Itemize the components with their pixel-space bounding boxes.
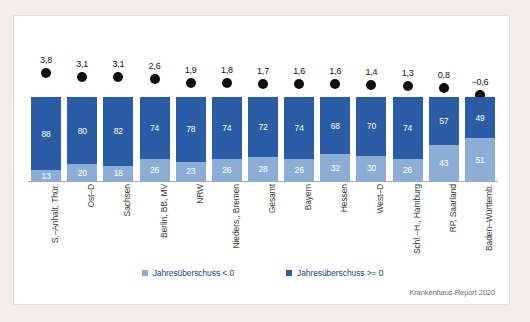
bar-segment-value: 57 <box>439 116 448 126</box>
category-label-text: Schl.–H., Hamburg <box>412 184 422 254</box>
bar-column[interactable]: 1,47030 <box>356 26 386 181</box>
marker-dot <box>222 78 232 88</box>
marker-dot <box>41 68 51 78</box>
bar-segment-value: 74 <box>150 123 159 133</box>
marker-dot <box>439 83 449 93</box>
bar-segment-value: 80 <box>78 126 87 136</box>
bar-segment-value: 30 <box>367 163 376 173</box>
bar-column[interactable]: 1,87426 <box>212 26 242 181</box>
bar-column[interactable]: 1,77228 <box>248 26 278 181</box>
source-note: Krankenhaus-Report 2020 <box>409 288 495 297</box>
stacked-bar[interactable]: 8020 <box>67 97 97 181</box>
category-label-text: Sachsen <box>122 184 132 216</box>
category-label: Schl.–H., Hamburg <box>393 184 423 266</box>
category-label: Ost–D <box>67 184 97 266</box>
category-label: S.–Anhalt, Thür. <box>31 184 61 266</box>
marker-value-label: −0,6 <box>457 77 503 87</box>
bar-column[interactable]: 2,67426 <box>140 26 170 181</box>
stacked-bar[interactable]: 4951 <box>465 97 495 181</box>
category-label-text: S.–Anhalt, Thür. <box>50 184 60 243</box>
bar-segment-positive: 88 <box>31 97 61 170</box>
bar-column[interactable]: −0,64951 <box>465 26 495 181</box>
category-label: Bayern <box>284 184 314 266</box>
bar-segment-negative: 20 <box>67 164 97 181</box>
bar-segment-value: 20 <box>78 168 87 178</box>
category-label-text: NRW <box>195 184 205 204</box>
bar-segment-positive: 49 <box>465 97 495 138</box>
bar-column[interactable]: 1,97823 <box>176 26 206 181</box>
bar-segment-negative: 23 <box>176 162 206 181</box>
bar-segment-value: 23 <box>186 166 195 176</box>
bar-column[interactable]: 1,37426 <box>393 26 423 181</box>
bar-column[interactable]: 1,67426 <box>284 26 314 181</box>
bar-column[interactable]: 3,18020 <box>67 26 97 181</box>
category-label: Baden–Württemb. <box>465 184 495 266</box>
bar-segment-negative: 26 <box>140 159 170 181</box>
axis-baseline <box>28 181 498 182</box>
category-label: NRW <box>176 184 206 266</box>
stacked-bar[interactable]: 7030 <box>356 97 386 181</box>
bar-segment-value: 74 <box>295 123 304 133</box>
bar-segment-positive: 72 <box>248 97 278 157</box>
marker-dot <box>186 78 196 88</box>
category-label-text: Bayern <box>303 184 313 210</box>
stacked-bar[interactable]: 8218 <box>103 97 133 181</box>
bar-segment-negative: 13 <box>31 170 61 181</box>
marker-dot <box>113 72 123 82</box>
category-label-text: Hessen <box>339 184 349 212</box>
bar-column[interactable]: 3,18218 <box>103 26 133 181</box>
bar-segment-value: 49 <box>475 113 484 123</box>
bar-segment-value: 68 <box>331 121 340 131</box>
bar-segment-negative: 43 <box>429 145 459 181</box>
marker-dot <box>294 79 304 89</box>
stacked-bar[interactable]: 7228 <box>248 97 278 181</box>
stacked-bar[interactable]: 6832 <box>320 97 350 181</box>
bar-segment-value: 74 <box>222 123 231 133</box>
bar-column[interactable]: 1,66832 <box>320 26 350 181</box>
stacked-bar[interactable]: 8813 <box>31 97 61 181</box>
bar-segment-negative: 32 <box>320 154 350 181</box>
bar-segment-value: 26 <box>222 165 231 175</box>
bar-segment-positive: 70 <box>356 97 386 156</box>
bar-segment-positive: 57 <box>429 97 459 145</box>
legend-item-negative[interactable]: Jahresüberschuss < 0 <box>142 268 234 278</box>
category-label-text: Ost–D <box>86 184 96 208</box>
bar-segment-value: 88 <box>42 129 51 139</box>
stacked-bar[interactable]: 7426 <box>140 97 170 181</box>
stacked-bar[interactable]: 5743 <box>429 97 459 181</box>
plot-area: 3,888133,180203,182182,674261,978231,874… <box>28 26 498 181</box>
legend-item-positive[interactable]: Jahresüberschuss >= 0 <box>286 268 383 278</box>
category-label-text: Berlin, BB, MV <box>159 184 169 238</box>
stacked-bar[interactable]: 7426 <box>284 97 314 181</box>
bar-segment-negative: 30 <box>356 156 386 181</box>
bar-column[interactable]: 3,88813 <box>31 26 61 181</box>
bar-segment-value: 26 <box>403 165 412 175</box>
bar-segment-positive: 78 <box>176 97 206 162</box>
marker-dot <box>366 80 376 90</box>
marker-dot <box>258 79 268 89</box>
bar-segment-value: 82 <box>114 126 123 136</box>
bar-segment-value: 26 <box>150 165 159 175</box>
bar-segment-negative: 26 <box>212 159 242 181</box>
stacked-bar[interactable]: 7823 <box>176 97 206 181</box>
bar-segment-positive: 68 <box>320 97 350 154</box>
bar-segment-negative: 26 <box>393 159 423 181</box>
stacked-bar[interactable]: 7426 <box>393 97 423 181</box>
legend-swatch-positive-icon <box>286 270 292 276</box>
category-label: RP, Saarland <box>429 184 459 266</box>
bar-segment-positive: 74 <box>140 97 170 159</box>
bar-segment-negative: 51 <box>465 138 495 181</box>
bar-segment-value: 74 <box>403 123 412 133</box>
bar-segment-negative: 28 <box>248 157 278 181</box>
bar-segment-negative: 26 <box>284 159 314 181</box>
category-label-text: Nieders., Bremen <box>231 184 241 249</box>
bar-column[interactable]: 0,85743 <box>429 26 459 181</box>
bar-segment-value: 72 <box>258 122 267 132</box>
category-label: Hessen <box>320 184 350 266</box>
category-label: West–D <box>356 184 386 266</box>
bar-segment-value: 28 <box>258 164 267 174</box>
bar-segment-positive: 74 <box>393 97 423 159</box>
stacked-bar[interactable]: 7426 <box>212 97 242 181</box>
bar-segment-value: 78 <box>186 124 195 134</box>
bar-segment-positive: 80 <box>67 97 97 164</box>
